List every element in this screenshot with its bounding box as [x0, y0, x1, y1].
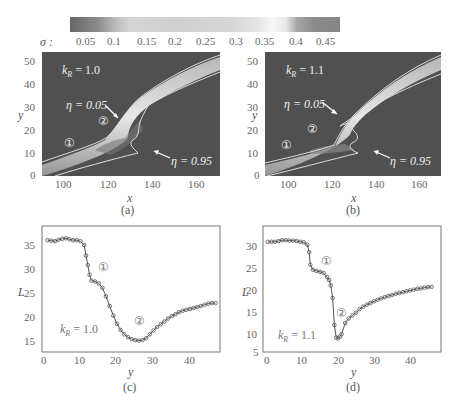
- ytick: 50: [247, 55, 258, 67]
- panel-caption: (c): [123, 380, 136, 395]
- y-axis-label: y: [18, 108, 23, 123]
- ytick: 0: [254, 169, 260, 181]
- x-axis-label: y: [128, 365, 133, 380]
- region-marker: ②: [134, 314, 145, 329]
- region-marker: ①: [64, 136, 75, 151]
- k-label: kR = 1.1: [286, 63, 324, 79]
- panel-caption: (a): [121, 203, 134, 218]
- ytick: 20: [24, 311, 35, 323]
- eta-label: η = 0.95: [390, 154, 431, 169]
- xtick: 160: [188, 178, 205, 190]
- xtick: 0: [41, 354, 47, 366]
- ytick: 10: [24, 147, 35, 159]
- y-axis-label: L: [18, 285, 25, 300]
- ytick: 40: [247, 78, 258, 90]
- xtick: 20: [333, 354, 344, 366]
- xtick: 30: [369, 354, 380, 366]
- xtick: 120: [100, 178, 117, 190]
- eta-label: η = 0.05: [66, 98, 107, 113]
- eta-label: η = 0.05: [284, 97, 325, 112]
- eta-label: η = 0.95: [171, 154, 212, 169]
- k-label: kR = 1.0: [62, 63, 100, 79]
- xtick: 0: [264, 354, 270, 366]
- region-marker: ②: [307, 122, 318, 137]
- xtick: 40: [184, 354, 195, 366]
- region-marker: ②: [336, 306, 347, 321]
- ytick: 30: [246, 240, 257, 252]
- ytick: 25: [24, 287, 35, 299]
- xtick: 10: [74, 354, 85, 366]
- y-axis-label: y: [252, 108, 257, 123]
- xtick: 140: [368, 178, 385, 190]
- xtick: 10: [296, 354, 307, 366]
- xtick: 140: [144, 178, 161, 190]
- ytick: 15: [24, 335, 35, 347]
- ytick: 10: [247, 147, 258, 159]
- xtick: 100: [55, 178, 72, 190]
- region-marker: ①: [321, 254, 332, 269]
- region-marker: ①: [98, 260, 109, 275]
- ytick: 50: [24, 55, 35, 67]
- x-axis-label: y: [351, 365, 356, 380]
- xtick: 30: [147, 354, 158, 366]
- k-label: kR = 1.1: [278, 328, 316, 344]
- xtick: 120: [324, 178, 341, 190]
- ytick: 40: [24, 78, 35, 90]
- ytick: 15: [246, 306, 257, 318]
- ytick: 30: [24, 101, 35, 113]
- ytick: 30: [24, 263, 35, 275]
- region-marker: ②: [98, 114, 109, 129]
- xtick: 100: [280, 178, 297, 190]
- y-axis-label: L: [242, 285, 249, 300]
- ytick: 20: [247, 124, 258, 136]
- ytick: 0: [30, 169, 36, 181]
- xtick: 20: [110, 354, 121, 366]
- ytick: 35: [24, 239, 35, 251]
- xtick: 160: [411, 178, 428, 190]
- ytick: 20: [24, 124, 35, 136]
- panel-caption: (b): [346, 203, 360, 218]
- plots-canvas: [0, 0, 461, 407]
- panel-caption: (d): [346, 380, 360, 395]
- k-label: kR = 1.0: [60, 322, 98, 338]
- ytick: 10: [246, 328, 257, 340]
- ytick: 5: [253, 346, 259, 358]
- region-marker: ①: [281, 138, 292, 153]
- xtick: 40: [405, 354, 416, 366]
- ytick: 25: [246, 262, 257, 274]
